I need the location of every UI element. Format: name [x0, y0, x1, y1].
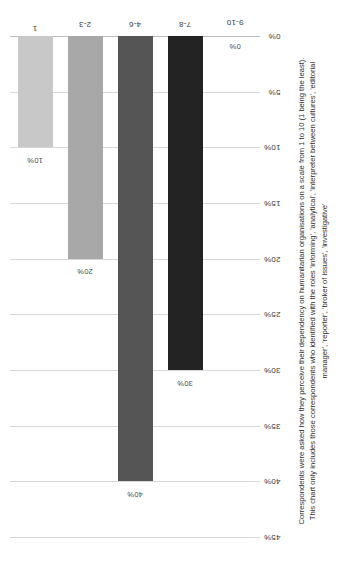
value-axis-tick: 10%	[264, 143, 281, 152]
chart-caption: Correspondents were asked how they perce…	[296, 21, 330, 561]
category-axis-tick: 4-6	[129, 20, 141, 29]
bar-row: 0%	[210, 36, 260, 537]
value-axis-tick: 5%	[269, 87, 281, 96]
bar[interactable]	[168, 36, 203, 370]
caption-line-2: This chart only includes those correspon…	[307, 21, 318, 561]
bar-value-label: 40%	[127, 490, 143, 499]
bar-value-label: 10%	[27, 156, 43, 165]
caption-line-3: manager', 'reporter', 'broker of issues'…	[319, 21, 330, 561]
bar-value-label: 0%	[229, 42, 240, 51]
bar[interactable]	[18, 36, 53, 147]
bar-value-label: 30%	[177, 378, 193, 387]
plot-area: 10% 20% 40% 30% 0%	[10, 36, 260, 537]
bar-row: 20%	[60, 36, 110, 537]
value-axis-tick: 0%	[269, 32, 281, 41]
gridline	[10, 537, 260, 538]
value-axis-tick: 35%	[264, 421, 281, 430]
value-axis-tick: 40%	[264, 477, 281, 486]
caption-line-1: Correspondents were asked how they perce…	[296, 21, 307, 561]
bar[interactable]	[68, 36, 103, 259]
rotated-page-canvas: 0% 5% 10% 15% 20% 25% 30% 35% 40% 45% 10…	[0, 0, 362, 581]
bar[interactable]	[118, 36, 153, 481]
bar-series: 10% 20% 40% 30% 0%	[10, 36, 260, 537]
value-axis-tick: 15%	[264, 199, 281, 208]
bar-row: 10%	[10, 36, 60, 537]
category-axis-tick: 2-3	[79, 20, 91, 29]
category-axis: 1 2-3 4-6 7-8 9-10	[10, 5, 260, 35]
category-axis-tick: 1	[33, 24, 38, 33]
bar-chart-figure: 0% 5% 10% 15% 20% 25% 30% 35% 40% 45% 10…	[0, 0, 362, 581]
value-axis-tick: 45%	[264, 533, 281, 542]
bar-row: 40%	[110, 36, 160, 537]
value-axis: 0% 5% 10% 15% 20% 25% 30% 35% 40% 45%	[262, 36, 290, 537]
value-axis-tick: 20%	[264, 254, 281, 263]
category-axis-tick: 9-10	[227, 18, 244, 27]
bar-row: 30%	[160, 36, 210, 537]
category-axis-tick: 7-8	[179, 20, 191, 29]
value-axis-tick: 30%	[264, 366, 281, 375]
value-axis-tick: 25%	[264, 310, 281, 319]
bar-value-label: 20%	[77, 267, 93, 276]
